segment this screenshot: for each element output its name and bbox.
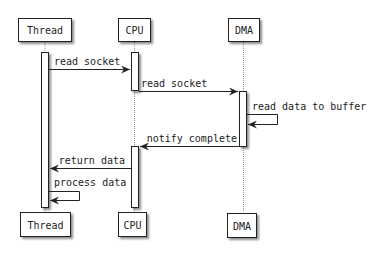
message-label-5: return data bbox=[59, 155, 125, 166]
dma-activation bbox=[240, 92, 247, 147]
message-label-1: read socket bbox=[54, 56, 120, 67]
message-label-3: read data to buffer bbox=[252, 101, 366, 112]
participant-cpu-label: CPU bbox=[125, 25, 143, 36]
message-arrow-3 bbox=[247, 115, 278, 125]
message-arrow-6 bbox=[49, 192, 80, 201]
participant-cpu-bottom-label: CPU bbox=[123, 220, 141, 231]
participant-dma-bottom-label: DMA bbox=[233, 221, 251, 232]
participant-dma-label: DMA bbox=[235, 25, 253, 36]
sequence-diagram: Thread CPU DMA read socket read socket r… bbox=[0, 0, 377, 256]
participant-thread-label: Thread bbox=[27, 25, 63, 36]
participant-thread-bottom-label: Thread bbox=[27, 220, 63, 231]
cpu-activation-2 bbox=[132, 147, 139, 208]
message-label-6: process data bbox=[54, 177, 126, 188]
message-label-4: notify complete bbox=[147, 133, 237, 144]
thread-activation bbox=[42, 53, 49, 208]
message-label-2: read socket bbox=[141, 78, 207, 89]
cpu-activation-1 bbox=[132, 53, 139, 91]
